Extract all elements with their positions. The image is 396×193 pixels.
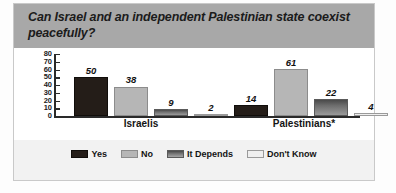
legend-label-dont-know: Don't Know — [267, 149, 317, 159]
poll-result-card: Can Israel and an independent Palestinia… — [13, 3, 375, 181]
legend-item-yes[interactable]: Yes — [71, 149, 107, 159]
bar-value-israelis-it-depends: 9 — [154, 98, 188, 108]
bar-israelis-it-depends — [154, 109, 188, 116]
bar-israelis-yes — [74, 77, 108, 116]
bar-value-palestinians-it-depends: 22 — [314, 88, 348, 98]
chart-area: 80 70 60 50 40 30 20 10 0 — [14, 48, 374, 138]
legend-swatch-yes-icon — [71, 150, 88, 158]
x-axis-label-palestinians: Palestinians* — [244, 118, 364, 130]
legend-label-yes: Yes — [91, 149, 107, 159]
bar-israelis-no — [114, 87, 148, 116]
screenshot-root: Can Israel and an independent Palestinia… — [0, 0, 396, 193]
y-axis: 80 70 60 50 40 30 20 10 0 — [30, 54, 52, 116]
bar-value-israelis-no: 38 — [114, 75, 148, 85]
bar-value-palestinians-no: 61 — [274, 58, 308, 68]
legend-item-dont-know[interactable]: Don't Know — [247, 149, 317, 159]
legend-swatch-no-icon — [121, 150, 138, 158]
bar-series-container: 50 38 9 2 14 61 22 4 — [56, 54, 360, 116]
bar-value-israelis-dont-know: 2 — [194, 103, 228, 113]
bar-palestinians-no — [274, 69, 308, 116]
legend-swatch-it-depends-icon — [167, 150, 184, 158]
chart-legend: Yes No It Depends Don't Know — [14, 149, 374, 159]
bar-value-palestinians-dont-know: 4 — [354, 102, 388, 112]
legend-item-no[interactable]: No — [121, 149, 153, 159]
x-axis-label-israelis: Israelis — [86, 118, 196, 130]
plot-region: 80 70 60 50 40 30 20 10 0 — [30, 54, 360, 138]
legend-band: Yes No It Depends Don't Know — [14, 139, 374, 180]
bar-value-palestinians-yes: 14 — [234, 94, 268, 104]
legend-label-no: No — [141, 149, 153, 159]
page-title: Can Israel and an independent Palestinia… — [28, 10, 362, 41]
bar-value-israelis-yes: 50 — [74, 66, 108, 76]
legend-label-it-depends: It Depends — [187, 149, 233, 159]
card-title-band: Can Israel and an independent Palestinia… — [14, 4, 374, 48]
legend-item-it-depends[interactable]: It Depends — [167, 149, 233, 159]
bar-israelis-dont-know — [194, 114, 228, 116]
bar-palestinians-yes — [234, 105, 268, 116]
legend-swatch-dont-know-icon — [247, 150, 264, 158]
y-tick-label: 0 — [30, 112, 52, 120]
bar-palestinians-dont-know — [354, 113, 388, 116]
bar-palestinians-it-depends — [314, 99, 348, 116]
